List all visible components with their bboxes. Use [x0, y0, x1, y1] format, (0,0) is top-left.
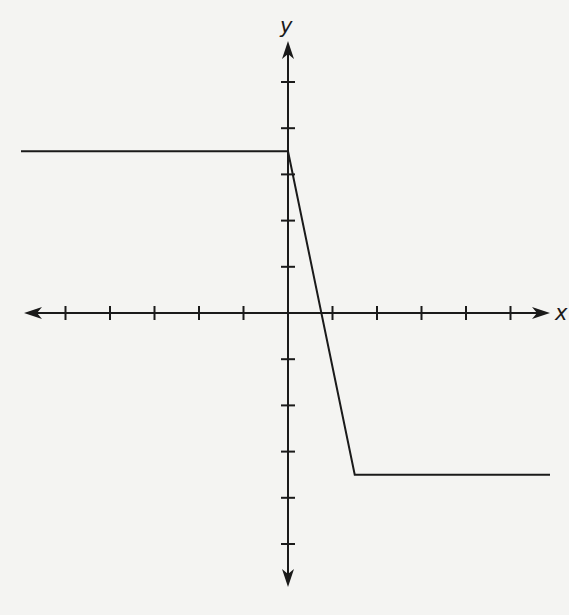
y-axis-label: y [279, 14, 293, 38]
function-graph: y x [0, 0, 569, 615]
axes [24, 41, 550, 587]
x-axis-label: x [554, 301, 568, 325]
